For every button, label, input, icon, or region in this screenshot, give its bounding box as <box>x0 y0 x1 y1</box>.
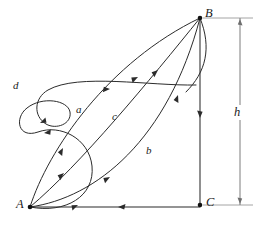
path-b-inner-crescent <box>186 18 206 92</box>
vertex-label-B: B <box>205 7 213 20</box>
dimension-arrowhead-up <box>238 19 243 26</box>
edge-CA-arrowhead <box>118 204 126 210</box>
path-c-arrowhead-2 <box>57 171 66 180</box>
dimension-h <box>203 18 253 205</box>
vertex-dot-C <box>198 203 203 208</box>
path-label-b: b <box>146 145 152 156</box>
vertex-label-A: A <box>16 198 24 211</box>
edge-CA <box>30 204 200 210</box>
dimension-label-h: h <box>232 105 242 120</box>
path-d-arrowhead-out <box>103 87 111 93</box>
vertex-dot-A <box>28 205 33 210</box>
figure-canvas: A B C a b c d h <box>0 0 265 229</box>
edge-BC-arrowhead <box>197 111 203 119</box>
vertex-dot-B <box>198 16 203 21</box>
vertex-label-C: C <box>206 196 214 209</box>
path-d-curve <box>19 81 196 210</box>
diagram-svg <box>0 0 265 229</box>
path-label-c: c <box>112 111 117 122</box>
path-a-arrowhead <box>130 75 139 83</box>
path-label-d: d <box>13 80 19 91</box>
path-b-arrowhead <box>173 94 181 103</box>
path-label-a: a <box>76 104 82 115</box>
dimension-arrowhead-down <box>238 198 243 205</box>
edge-BC <box>197 18 203 205</box>
